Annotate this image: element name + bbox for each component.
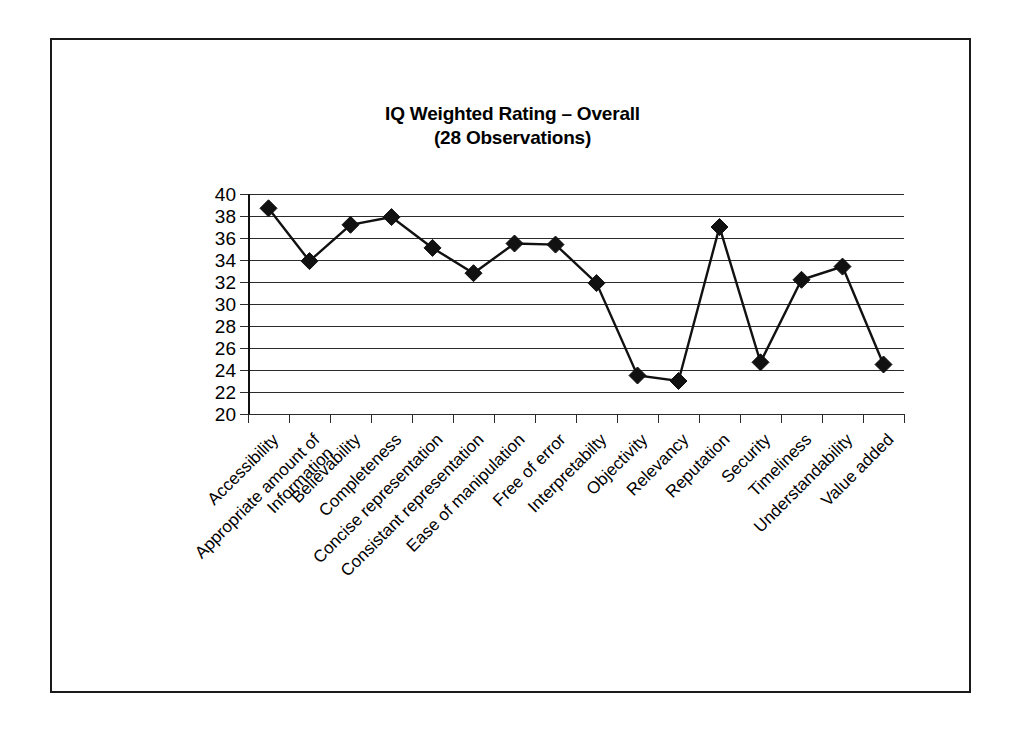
- data-point-marker: [875, 356, 892, 373]
- x-tick: [863, 414, 864, 423]
- x-tick: [330, 414, 331, 423]
- y-axis-label: 22: [215, 383, 236, 402]
- x-tick: [412, 414, 413, 423]
- data-point-marker: [629, 367, 646, 384]
- y-axis-label: 32: [215, 273, 236, 292]
- y-tick-26: [240, 348, 248, 349]
- y-axis-label: 40: [215, 185, 236, 204]
- series-polyline: [269, 208, 884, 381]
- x-tick: [699, 414, 700, 423]
- series-markers-group: [260, 200, 892, 390]
- x-tick: [453, 414, 454, 423]
- y-axis-label: 28: [215, 317, 236, 336]
- x-tick: [740, 414, 741, 423]
- y-tick-40: [240, 194, 248, 195]
- x-tick: [904, 414, 905, 423]
- y-axis-label: 34: [215, 251, 236, 270]
- y-axis-label: 30: [215, 295, 236, 314]
- y-axis-label: 24: [215, 361, 236, 380]
- y-tick-24: [240, 370, 248, 371]
- y-axis-label: 20: [215, 405, 236, 424]
- y-tick-30: [240, 304, 248, 305]
- plot-area: 2022242628303234363840: [248, 194, 904, 414]
- figure-root: IQ Weighted Rating – Overall (28 Observa…: [0, 0, 1021, 737]
- data-point-marker: [793, 271, 810, 288]
- y-axis-label: 38: [215, 207, 236, 226]
- x-tick: [576, 414, 577, 423]
- y-tick-22: [240, 392, 248, 393]
- chart-title-line-1: IQ Weighted Rating – Overall: [385, 103, 640, 124]
- data-series-line: [248, 194, 904, 414]
- x-tick: [248, 414, 249, 423]
- x-tick: [658, 414, 659, 423]
- figure-border-frame: IQ Weighted Rating – Overall (28 Observa…: [50, 38, 971, 693]
- x-tick: [494, 414, 495, 423]
- data-point-marker: [752, 354, 769, 371]
- y-tick-38: [240, 216, 248, 217]
- y-axis-label: 26: [215, 339, 236, 358]
- data-point-marker: [711, 219, 728, 236]
- x-tick: [535, 414, 536, 423]
- y-tick-20: [240, 414, 248, 415]
- x-tick: [289, 414, 290, 423]
- x-tick: [371, 414, 372, 423]
- y-axis-label: 36: [215, 229, 236, 248]
- x-tick: [822, 414, 823, 423]
- data-point-marker: [506, 235, 523, 252]
- chart-title-line-2: (28 Observations): [52, 126, 973, 150]
- x-tick: [617, 414, 618, 423]
- data-point-marker: [834, 258, 851, 275]
- y-tick-28: [240, 326, 248, 327]
- chart-title: IQ Weighted Rating – Overall (28 Observa…: [52, 102, 973, 150]
- y-tick-32: [240, 282, 248, 283]
- x-tick: [781, 414, 782, 423]
- data-point-marker: [670, 373, 687, 390]
- data-point-marker: [465, 265, 482, 282]
- y-tick-34: [240, 260, 248, 261]
- y-tick-36: [240, 238, 248, 239]
